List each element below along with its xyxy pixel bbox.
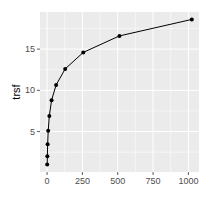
line-chart: 02505007501000 51015 trsf <box>0 0 211 197</box>
data-point <box>46 142 50 146</box>
y-tick-label: 15 <box>25 44 35 54</box>
data-point <box>46 129 50 133</box>
data-point <box>47 114 51 118</box>
data-point <box>81 50 85 54</box>
data-point <box>190 17 194 21</box>
y-axis-title: trsf <box>10 83 22 99</box>
x-axis: 02505007501000 <box>45 172 199 186</box>
data-point <box>117 34 121 38</box>
x-tick-label: 1000 <box>178 176 198 186</box>
data-point <box>50 98 54 102</box>
data-point <box>45 154 49 158</box>
x-tick-label: 250 <box>75 176 90 186</box>
data-point <box>54 83 58 87</box>
x-tick-label: 500 <box>110 176 125 186</box>
x-tick-label: 0 <box>45 176 50 186</box>
y-tick-label: 10 <box>25 85 35 95</box>
data-point <box>45 163 49 167</box>
y-axis: 51015 <box>25 44 40 136</box>
data-point <box>63 67 67 71</box>
x-tick-label: 750 <box>146 176 161 186</box>
y-tick-label: 5 <box>30 127 35 137</box>
